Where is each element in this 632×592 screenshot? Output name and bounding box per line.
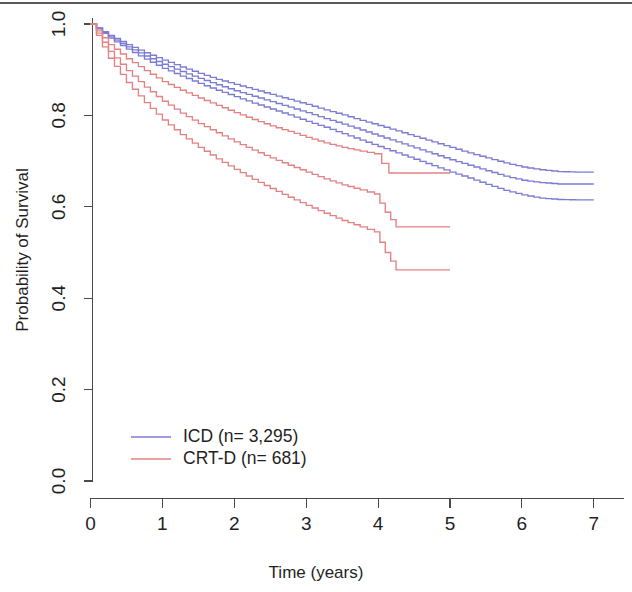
y-tick-label: 0.0	[48, 468, 69, 494]
x-tick-label: 3	[301, 513, 312, 534]
x-tick-label: 1	[157, 513, 168, 534]
y-tick-label: 0.4	[48, 285, 69, 312]
y-axis-title: Probability of Survival	[13, 168, 32, 331]
y-tick-label: 0.2	[48, 376, 69, 402]
x-tick-label: 4	[373, 513, 384, 534]
legend-label: ICD (n= 3,295)	[183, 426, 298, 446]
y-tick-label: 0.6	[48, 194, 69, 220]
x-tick-label: 5	[445, 513, 456, 534]
x-tick-label: 7	[589, 513, 600, 534]
legend-label: CRT-D (n= 681)	[183, 448, 307, 468]
survival-plot-figure: 0.00.20.40.60.81.0 01234567 Time (years)…	[0, 0, 632, 592]
kaplan-meier-chart: 0.00.20.40.60.81.0 01234567 Time (years)…	[0, 0, 632, 592]
x-tick-label: 0	[85, 513, 96, 534]
x-tick-label: 6	[517, 513, 528, 534]
y-tick-label: 1.0	[48, 11, 69, 37]
y-tick-label: 0.8	[48, 102, 69, 128]
x-axis-title: Time (years)	[269, 563, 364, 582]
x-tick-label: 2	[229, 513, 240, 534]
chart-background	[0, 0, 632, 592]
